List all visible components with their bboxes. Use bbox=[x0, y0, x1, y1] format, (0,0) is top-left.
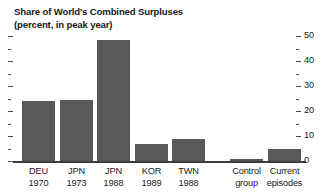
bar-jpn-1973 bbox=[60, 100, 93, 161]
y-axis-tick-right-40 bbox=[296, 61, 301, 62]
category-line1: DEU bbox=[29, 166, 48, 176]
y-axis-tick-left-40 bbox=[8, 61, 13, 62]
y-axis-tick-right-20 bbox=[296, 111, 301, 112]
y-axis-tick-right-15 bbox=[296, 124, 299, 125]
y-axis-tick-left-25 bbox=[8, 99, 11, 100]
category-line1: KOR bbox=[142, 166, 161, 176]
y-axis-tick-right-35 bbox=[296, 74, 299, 75]
bar-kor-1989 bbox=[135, 144, 168, 162]
y-axis-tick-right-30 bbox=[296, 86, 301, 87]
y-axis-tick-left-15 bbox=[8, 124, 11, 125]
bar-current-episodes bbox=[268, 149, 301, 162]
x-axis-category-label: Currentepisodes bbox=[260, 166, 309, 189]
y-axis-tick-right-45 bbox=[296, 49, 299, 50]
zero-baseline bbox=[13, 161, 306, 163]
category-line1: Control bbox=[232, 166, 261, 176]
y-axis-tick-right-0 bbox=[296, 161, 301, 162]
y-axis-label-0: 0 bbox=[304, 156, 309, 165]
y-axis-label-20: 20 bbox=[304, 106, 314, 115]
category-line2: episodes bbox=[260, 178, 309, 190]
y-axis-tick-right-25 bbox=[296, 99, 299, 100]
y-axis-label-30: 30 bbox=[304, 81, 314, 90]
y-axis-tick-left-0 bbox=[8, 161, 13, 162]
bar-control-group bbox=[230, 159, 263, 162]
y-axis-tick-left-50 bbox=[8, 36, 13, 37]
y-axis-label-10: 10 bbox=[304, 131, 314, 140]
x-axis-category-label: TWN1988 bbox=[164, 166, 213, 189]
y-axis-tick-left-35 bbox=[8, 74, 11, 75]
category-line1: Current bbox=[270, 166, 300, 176]
y-axis-tick-left-45 bbox=[8, 49, 11, 50]
bar-jpn-1988 bbox=[97, 40, 130, 161]
category-line1: JPN bbox=[68, 166, 85, 176]
y-axis-tick-right-10 bbox=[296, 136, 301, 137]
y-axis-tick-left-30 bbox=[8, 86, 13, 87]
category-line1: TWN bbox=[178, 166, 198, 176]
y-axis-label-40: 40 bbox=[304, 56, 314, 65]
y-axis-tick-left-5 bbox=[8, 149, 11, 150]
y-axis-tick-right-50 bbox=[296, 36, 301, 37]
chart-figure: Share of World's Combined Surpluses (per… bbox=[0, 0, 323, 196]
bar-deu-1970 bbox=[22, 101, 55, 161]
category-line2: 1988 bbox=[164, 178, 213, 190]
bar-twn-1988 bbox=[172, 139, 205, 162]
category-line1: JPN bbox=[105, 166, 122, 176]
plot-area: 01020304050DEU1970JPN1973JPN1988KOR1989T… bbox=[0, 0, 323, 196]
y-axis-tick-left-20 bbox=[8, 111, 13, 112]
y-axis-label-50: 50 bbox=[304, 31, 314, 40]
y-axis-tick-left-10 bbox=[8, 136, 13, 137]
